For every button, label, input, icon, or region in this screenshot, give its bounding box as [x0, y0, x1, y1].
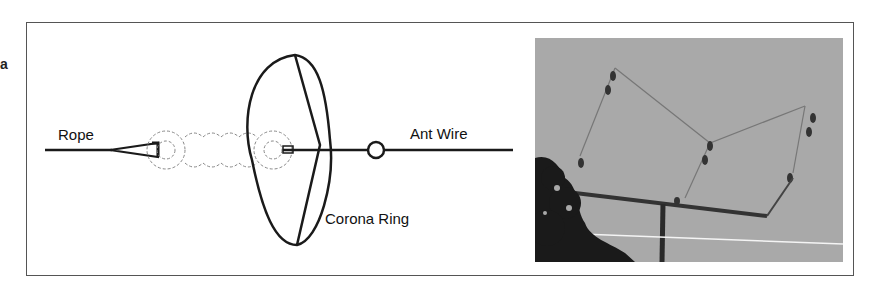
corona-ring-label: Corona Ring	[325, 210, 409, 227]
insulator-icon	[147, 131, 292, 169]
antenna-photo	[535, 38, 843, 262]
ant-wire-node-icon	[368, 142, 384, 158]
mast	[662, 204, 663, 262]
ant-wire-label: Ant Wire	[410, 125, 468, 142]
rope-loop	[110, 143, 158, 157]
rope-label: Rope	[58, 126, 94, 143]
